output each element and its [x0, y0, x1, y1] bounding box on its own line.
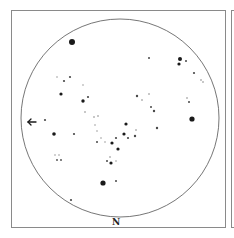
star-point: [136, 95, 138, 97]
star-point: [96, 141, 98, 143]
star-point: [185, 60, 187, 62]
star-point: [148, 57, 150, 59]
star-point: [56, 76, 57, 77]
star-point: [127, 137, 129, 139]
star-point: [115, 160, 116, 161]
star-point: [104, 141, 105, 142]
star-point: [97, 115, 99, 117]
star-point: [148, 93, 150, 95]
star-point: [70, 199, 72, 201]
star-point: [84, 111, 86, 113]
star-point: [106, 160, 108, 162]
star-point: [60, 159, 62, 161]
star-point: [69, 76, 71, 78]
star-point: [54, 154, 55, 155]
star-point: [186, 97, 188, 99]
star-point: [115, 137, 117, 139]
star-point: [58, 154, 59, 155]
star-point: [56, 159, 58, 161]
star-point: [110, 141, 113, 144]
star-chart: [0, 0, 234, 238]
star-point: [193, 72, 195, 74]
star-point: [59, 92, 62, 95]
star-point: [94, 124, 95, 125]
star-point: [116, 147, 119, 150]
star-point: [93, 116, 95, 118]
north-label: N: [110, 217, 122, 227]
star-point: [109, 161, 112, 164]
star-point: [141, 99, 143, 101]
star-point: [44, 119, 46, 121]
stars-group: [44, 39, 204, 201]
star-point: [188, 101, 190, 103]
star-point: [109, 156, 111, 158]
star-point: [52, 132, 56, 136]
star-point: [189, 116, 194, 121]
star-point: [202, 81, 204, 83]
star-point: [87, 96, 89, 98]
star-point: [200, 79, 202, 81]
sky-circle: [21, 19, 219, 217]
star-point: [81, 99, 84, 102]
star-point: [100, 137, 101, 138]
star-point: [153, 110, 155, 112]
star-point: [177, 62, 180, 65]
star-point: [135, 129, 137, 131]
star-point: [69, 39, 75, 45]
star-point: [100, 180, 105, 185]
star-point: [124, 122, 127, 125]
star-point: [134, 135, 136, 137]
star-point: [122, 132, 125, 135]
star-point: [156, 127, 158, 129]
star-point: [96, 130, 97, 131]
left-arrow-icon: [28, 119, 36, 125]
star-point: [63, 80, 65, 82]
star-point: [82, 84, 83, 85]
star-point: [150, 106, 152, 108]
star-point: [115, 180, 117, 182]
star-point: [178, 57, 182, 61]
star-point: [73, 133, 75, 135]
